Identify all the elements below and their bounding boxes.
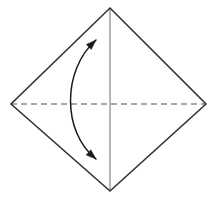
diagram-background — [0, 0, 217, 197]
origami-diagram-svg — [0, 0, 217, 197]
origami-diagram-container: Origami fold step diagram A square sheet… — [0, 0, 217, 197]
